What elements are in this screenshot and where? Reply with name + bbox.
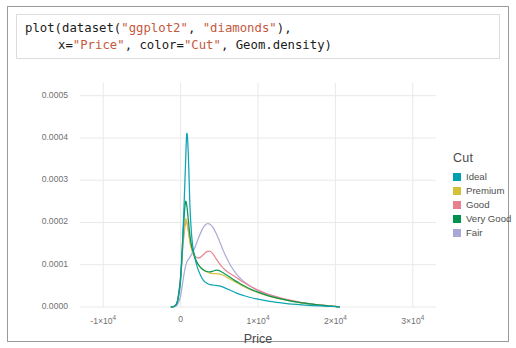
legend-item-very-good[interactable]: Very Good	[453, 212, 516, 225]
y-axis-tick-label: 0.0000	[24, 301, 68, 311]
legend-item-label: Ideal	[466, 171, 487, 182]
x-tick-base: 3×10	[401, 316, 420, 326]
x-axis-tick-label: 0	[156, 314, 206, 324]
legend-item-label: Premium	[466, 185, 504, 196]
y-axis-tick-label: 0.0002	[24, 216, 68, 226]
legend-title: Cut	[453, 151, 516, 165]
chart-canvas	[16, 65, 500, 343]
x-tick-exponent: 4	[421, 314, 425, 321]
notebook-output-root: plot(dataset("ggplot2", "diamonds"), x="…	[0, 0, 516, 348]
legend-swatch-icon	[453, 215, 461, 223]
y-axis-tick-label: 0.0001	[24, 259, 68, 269]
x-axis-tick-label: -1×104	[78, 314, 128, 326]
notebook-cell-frame: plot(dataset("ggplot2", "diamonds"), x="…	[7, 6, 509, 342]
legend-swatch-icon	[453, 201, 461, 209]
x-axis-title: Price	[198, 332, 318, 346]
code-token-2-2: "Price"	[73, 38, 125, 52]
legend-swatch-icon	[453, 187, 461, 195]
code-token-2-3: , color=	[125, 38, 184, 52]
code-line-2: x="Price", color="Cut", Geom.density)	[25, 37, 499, 54]
y-axis-tick-label: 0.0005	[24, 90, 68, 100]
x-axis-tick-label: 2×104	[310, 314, 360, 326]
legend-item-premium[interactable]: Premium	[453, 184, 516, 197]
x-tick-base: -1×10	[90, 316, 112, 326]
x-tick-base: 1×10	[247, 316, 266, 326]
x-axis-tick-label: 3×104	[388, 314, 438, 326]
y-axis-tick-label: 0.0004	[24, 132, 68, 142]
x-axis-tick-label: 1×104	[233, 314, 283, 326]
x-tick-exponent: 4	[343, 314, 347, 321]
legend-item-label: Very Good	[466, 213, 511, 224]
legend-item-fair[interactable]: Fair	[453, 226, 516, 239]
x-tick-base: 0	[178, 314, 183, 324]
code-token-1-1: plot(dataset(	[25, 21, 121, 35]
code-line-1: plot(dataset("ggplot2", "diamonds"),	[25, 20, 499, 37]
code-input-cell[interactable]: plot(dataset("ggplot2", "diamonds"), x="…	[16, 14, 500, 59]
y-axis-tick-label: 0.0003	[24, 174, 68, 184]
code-token-1-3: ,	[188, 21, 203, 35]
legend-item-label: Fair	[466, 227, 483, 238]
x-tick-base: 2×10	[324, 316, 343, 326]
legend-swatch-icon	[453, 229, 461, 237]
x-tick-exponent: 4	[266, 314, 270, 321]
code-token-2-4: "Cut"	[184, 38, 221, 52]
code-token-2-5: , Geom.density)	[221, 38, 332, 52]
legend-item-good[interactable]: Good	[453, 198, 516, 211]
code-token-2-1: x=	[58, 38, 73, 52]
legend-item-label: Good	[466, 199, 489, 210]
chart-legend: Cut IdealPremiumGoodVery GoodFair	[453, 151, 516, 240]
x-tick-exponent: 4	[113, 314, 117, 321]
code-token-1-4: "diamonds"	[203, 21, 277, 35]
legend-swatch-icon	[453, 173, 461, 181]
legend-item-ideal[interactable]: Ideal	[453, 170, 516, 183]
density-plot: Cut IdealPremiumGoodVery GoodFair 0.0000…	[16, 65, 500, 343]
code-token-1-5: ),	[277, 21, 292, 35]
code-token-1-2: "ggplot2"	[121, 21, 188, 35]
